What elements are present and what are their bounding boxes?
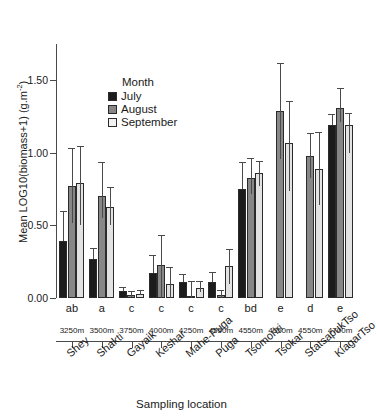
- x-category-label: Shey: [64, 334, 91, 359]
- error-bar: [183, 275, 184, 282]
- bar-july: [208, 282, 216, 298]
- error-bar-cap: [107, 187, 114, 188]
- y-tick-label-wrap: 0.00: [0, 293, 48, 304]
- error-bar-cap: [68, 148, 75, 149]
- significance-letter: c: [176, 302, 206, 314]
- bar-group: [298, 44, 323, 298]
- error-bar: [280, 64, 281, 158]
- error-bar: [170, 268, 171, 298]
- bar-july: [119, 291, 127, 298]
- error-bar: [80, 147, 81, 225]
- error-bar-cap: [77, 146, 84, 147]
- significance-letter: e: [266, 302, 296, 314]
- error-bar-cap: [196, 281, 203, 282]
- y-tick-mark: [50, 153, 56, 154]
- error-bar-cap: [98, 162, 105, 163]
- error-bar: [102, 163, 103, 218]
- error-bar-cap: [166, 267, 173, 268]
- error-bar: [191, 282, 192, 298]
- bar-july: [149, 273, 157, 298]
- error-bar: [251, 159, 252, 194]
- error-bar: [161, 236, 162, 298]
- bar-group: [238, 44, 263, 298]
- bar-august: [247, 178, 255, 298]
- legend-item-july: July: [108, 90, 177, 102]
- error-bar-cap: [158, 235, 165, 236]
- error-bar-cap: [277, 63, 284, 64]
- error-bar: [153, 256, 154, 273]
- legend-swatch-september: [108, 118, 117, 127]
- bar-group: [268, 44, 293, 298]
- legend-label: August: [121, 103, 157, 115]
- bar-july: [89, 259, 97, 298]
- error-bar: [332, 115, 333, 125]
- error-bar-cap: [345, 113, 352, 114]
- significance-letter: c: [206, 302, 236, 314]
- error-bar-cap: [315, 132, 322, 133]
- error-bar: [123, 288, 124, 291]
- y-axis-title-suffix: ): [17, 81, 29, 85]
- error-bar-cap: [209, 272, 216, 273]
- bar-group: [179, 44, 204, 298]
- error-bar-cap: [256, 161, 263, 162]
- error-bar: [242, 163, 243, 189]
- y-axis-title: Mean LOG10(biomass+1) (g.m-2): [15, 62, 29, 262]
- error-bar: [349, 114, 350, 153]
- error-bar-cap: [328, 114, 335, 115]
- error-bar-cap: [149, 255, 156, 256]
- error-bar-cap: [90, 248, 97, 249]
- legend-item-august: August: [108, 103, 177, 115]
- error-bar-cap: [188, 281, 195, 282]
- bar-september: [255, 173, 263, 298]
- error-bar: [310, 134, 311, 178]
- bar-july: [238, 189, 246, 298]
- error-bar: [140, 291, 141, 295]
- legend-swatch-august: [108, 105, 117, 114]
- bar-july: [328, 125, 336, 298]
- y-axis-title-superscript: -2: [15, 84, 24, 91]
- bar-group: [59, 44, 84, 298]
- x-axis-title: Sampling location: [0, 398, 363, 410]
- significance-letter: bd: [236, 302, 266, 314]
- error-bar: [289, 102, 290, 191]
- error-bar-cap: [239, 162, 246, 163]
- significance-letter: d: [295, 302, 325, 314]
- error-bar-cap: [247, 158, 254, 159]
- bar-group: [328, 44, 353, 298]
- error-bar-cap: [307, 133, 314, 134]
- y-tick-label: 0.50: [28, 220, 48, 231]
- error-bar-cap: [217, 290, 224, 291]
- error-bar-cap: [128, 291, 135, 292]
- error-bar: [319, 133, 320, 206]
- error-bar: [110, 188, 111, 226]
- y-tick-mark: [50, 225, 56, 226]
- error-bar: [212, 273, 213, 282]
- legend-title: Month: [122, 76, 177, 88]
- error-bar: [72, 149, 73, 223]
- significance-letter: a: [87, 302, 117, 314]
- error-bar-cap: [137, 290, 144, 291]
- error-bar: [131, 292, 132, 296]
- error-bar-cap: [286, 101, 293, 102]
- y-tick-mark: [50, 80, 56, 81]
- bar-july: [179, 282, 187, 298]
- significance-letter: c: [146, 302, 176, 314]
- y-tick-label: 1.00: [28, 148, 48, 159]
- error-bar-cap: [226, 249, 233, 250]
- legend-items: JulyAugustSeptember: [108, 90, 177, 128]
- legend-item-september: September: [108, 116, 177, 128]
- error-bar: [221, 291, 222, 298]
- y-axis-title-prefix: Mean LOG10(biomass+1) (g.m: [17, 91, 29, 243]
- error-bar-cap: [60, 211, 67, 212]
- error-bar: [259, 162, 260, 187]
- legend-label: July: [121, 90, 141, 102]
- x-category-label: Puga: [213, 333, 240, 359]
- y-tick-mark: [50, 298, 56, 299]
- error-bar-cap: [337, 88, 344, 89]
- legend-label: September: [121, 116, 177, 128]
- error-bar: [200, 282, 201, 292]
- bar-august: [336, 108, 344, 298]
- error-bar-cap: [179, 274, 186, 275]
- error-bar-cap: [119, 287, 126, 288]
